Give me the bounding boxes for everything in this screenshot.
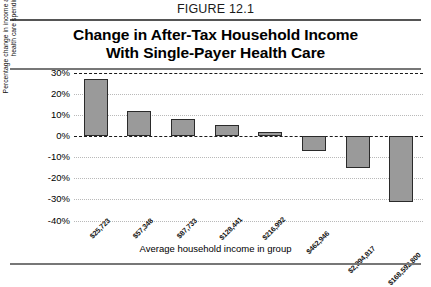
footer-divider (10, 263, 421, 265)
bar-slot (336, 73, 380, 221)
figure-number-label: FIGURE 12.1 (0, 0, 431, 16)
bar-slot (205, 73, 249, 221)
header-divider-bottom (10, 68, 421, 70)
bar[interactable] (258, 132, 282, 136)
bar-series (74, 73, 423, 221)
x-axis-title: Average household income in group (0, 243, 431, 254)
bar[interactable] (302, 136, 326, 151)
bar[interactable] (127, 111, 151, 136)
plot-area: Percentage change in income after taxes … (0, 73, 431, 223)
bar-slot (249, 73, 293, 221)
bar[interactable] (215, 125, 239, 136)
y-axis-tick-label: 10% (51, 110, 70, 120)
y-axis-tick-label: -20% (48, 174, 70, 184)
y-axis-tick-label: 0% (56, 131, 70, 141)
figure-title-line-2: With Single-Payer Health Care (6, 44, 425, 62)
y-axis-tick-label: 30% (51, 68, 70, 78)
category-label: $168,592,800 (386, 250, 423, 287)
y-axis-tick-label: -30% (48, 195, 70, 205)
bar[interactable] (389, 136, 413, 202)
y-axis-tick-labels: 30%20%10%0%-10%-20%-30%-40% (30, 73, 72, 221)
y-axis-tick-label: -10% (48, 152, 70, 162)
y-axis-title: Percentage change in income after taxes … (2, 0, 28, 99)
axes (74, 73, 423, 221)
bar[interactable] (84, 79, 108, 136)
bar-slot (161, 73, 205, 221)
bar-slot (292, 73, 336, 221)
y-axis-tick-label: -40% (48, 216, 70, 226)
bar-slot (118, 73, 162, 221)
bar[interactable] (171, 119, 195, 136)
bar-slot (74, 73, 118, 221)
figure-title-line-1: Change in After-Tax Household Income (6, 26, 425, 44)
bar-slot (379, 73, 423, 221)
bar[interactable] (346, 136, 370, 168)
figure-title: Change in After-Tax Household Income Wit… (0, 21, 431, 66)
y-axis-tick-label: 20% (51, 89, 70, 99)
